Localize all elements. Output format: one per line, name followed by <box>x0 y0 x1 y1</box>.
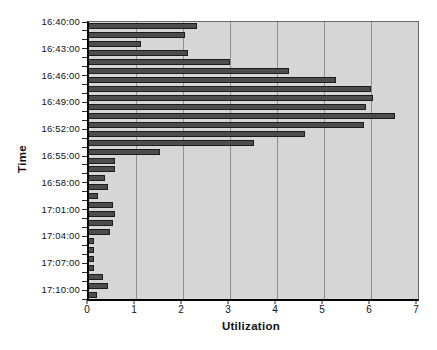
y-axis-tick <box>82 39 87 40</box>
y-tick-label: 16:49:00 <box>41 96 80 107</box>
y-axis-tick <box>82 66 87 67</box>
gridline <box>277 22 278 299</box>
bar <box>89 77 336 83</box>
y-tick-label: 17:01:00 <box>41 203 80 214</box>
bar <box>89 283 108 289</box>
x-tick-label: 0 <box>84 304 90 315</box>
x-tick-label: 6 <box>366 304 372 315</box>
y-tick-label: 16:58:00 <box>41 176 80 187</box>
bar <box>89 211 115 217</box>
bar <box>89 140 254 146</box>
bar <box>89 158 115 164</box>
gridline <box>324 22 325 299</box>
y-axis-tick <box>82 209 87 210</box>
bar <box>89 175 105 181</box>
y-tick-label: 16:40:00 <box>41 16 80 27</box>
y-axis-tick <box>82 182 87 183</box>
bar <box>89 59 230 65</box>
y-axis-tick <box>82 191 87 192</box>
x-axis-title: Utilization <box>222 320 280 332</box>
y-axis-tick <box>82 254 87 255</box>
bar-chart: Time Utilization 16:40:0016:43:0016:46:0… <box>0 0 437 350</box>
bar <box>89 131 305 137</box>
x-tick-label: 4 <box>272 304 278 315</box>
bar <box>89 193 98 199</box>
y-axis-tick <box>82 111 87 112</box>
y-axis-tick <box>82 164 87 165</box>
x-tick-label: 7 <box>413 304 419 315</box>
y-axis-title: Time <box>16 145 28 173</box>
y-axis-tick <box>82 138 87 139</box>
y-axis-tick <box>82 173 87 174</box>
y-tick-label: 16:46:00 <box>41 69 80 80</box>
bar <box>89 122 364 128</box>
y-axis-tick <box>82 236 87 237</box>
bar <box>89 50 188 56</box>
bar <box>89 247 94 253</box>
bar <box>89 23 197 29</box>
bar <box>89 265 94 271</box>
bar <box>89 238 94 244</box>
y-tick-label: 16:52:00 <box>41 123 80 134</box>
y-axis-tick <box>82 75 87 76</box>
bar <box>89 68 289 74</box>
bar <box>89 274 103 280</box>
y-axis-tick <box>82 48 87 49</box>
y-tick-label: 17:10:00 <box>41 284 80 295</box>
gridline <box>371 22 372 299</box>
bar <box>89 113 395 119</box>
y-axis-tick <box>82 263 87 264</box>
y-axis-tick <box>82 147 87 148</box>
y-axis-tick <box>82 290 87 291</box>
x-tick-label: 2 <box>178 304 184 315</box>
y-tick-label: 16:43:00 <box>41 42 80 53</box>
bar <box>89 256 94 262</box>
x-tick-label: 1 <box>131 304 137 315</box>
y-axis-tick <box>82 129 87 130</box>
y-tick-label: 17:04:00 <box>41 230 80 241</box>
bar <box>89 104 366 110</box>
bar <box>89 292 97 298</box>
x-tick-label: 5 <box>319 304 325 315</box>
y-axis-tick <box>82 93 87 94</box>
bar <box>89 86 371 92</box>
y-axis-tick <box>82 120 87 121</box>
bar <box>89 184 108 190</box>
y-axis-tick <box>82 281 87 282</box>
bar <box>89 95 373 101</box>
y-axis-tick <box>82 30 87 31</box>
bar <box>89 229 110 235</box>
y-axis-tick <box>82 272 87 273</box>
y-axis-tick <box>82 57 87 58</box>
y-axis-tick <box>82 102 87 103</box>
y-axis-tick <box>82 200 87 201</box>
y-axis-tick <box>82 218 87 219</box>
y-axis-tick <box>82 245 87 246</box>
bar <box>89 149 160 155</box>
y-axis-tick <box>82 227 87 228</box>
bar <box>89 41 141 47</box>
y-axis-tick <box>82 156 87 157</box>
plot-area <box>87 21 419 301</box>
y-tick-label: 17:07:00 <box>41 257 80 268</box>
y-axis-tick <box>82 22 87 23</box>
y-tick-label: 16:55:00 <box>41 150 80 161</box>
bar <box>89 32 185 38</box>
y-axis-tick <box>82 84 87 85</box>
bar <box>89 220 113 226</box>
x-tick-label: 3 <box>225 304 231 315</box>
bar <box>89 166 115 172</box>
bar <box>89 202 113 208</box>
